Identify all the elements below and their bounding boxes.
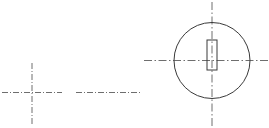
drawing-svg xyxy=(0,0,269,128)
technical-drawing-canvas xyxy=(0,0,269,128)
